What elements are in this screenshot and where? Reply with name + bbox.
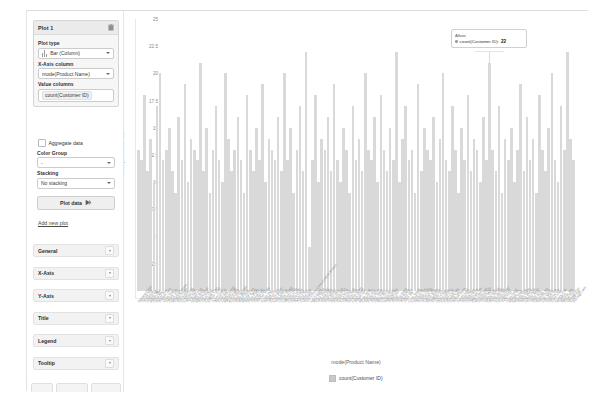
bar-series xyxy=(136,19,574,291)
bottom-button-3[interactable] xyxy=(91,383,121,392)
chevron-down-icon xyxy=(106,52,110,54)
legend-swatch xyxy=(329,375,336,382)
x-axis-column-select[interactable]: mode(Product Name) xyxy=(38,68,114,79)
stacking-select[interactable]: No stacking xyxy=(37,178,115,189)
stacking-label: Stacking xyxy=(37,170,115,176)
x-axis-title: mode(Product Name) xyxy=(124,359,588,365)
bar[interactable] xyxy=(572,160,575,291)
chart-tooltip: Afloat count(Customer ID): 22 xyxy=(451,29,527,48)
plot-type-label: Plot type xyxy=(38,40,114,46)
accordion-item-general[interactable]: General xyxy=(33,244,119,257)
chart-legend: count(Customer ID) xyxy=(124,375,588,382)
stacking-value: No stacking xyxy=(41,180,105,186)
chart-area: count(Customer ID) 2522.52017.51512.5107… xyxy=(124,11,588,392)
plot-card-header: Plot 1 xyxy=(34,21,118,35)
plot-type-value: Bar (Column) xyxy=(50,50,104,56)
accordion-general: General X-Axis Y-Axis Title Legend xyxy=(33,244,119,379)
accordion-label: General xyxy=(38,248,57,254)
run-arrow-icon xyxy=(85,199,92,206)
chevron-down-icon[interactable] xyxy=(105,359,114,368)
value-columns-field[interactable]: count(Customer ID) xyxy=(38,89,114,102)
x-axis-column-value: mode(Product Name) xyxy=(42,71,104,77)
plot-card-body: Plot type Bar (Column) X-Axis column mod… xyxy=(34,35,118,106)
accordion-label: Legend xyxy=(38,338,56,344)
accordion-item-x-axis[interactable]: X-Axis xyxy=(33,267,119,280)
chevron-down-icon[interactable] xyxy=(105,336,114,345)
accordion-label: Tooltip xyxy=(38,360,55,366)
accordion-label: Title xyxy=(38,315,49,321)
chevron-down-icon[interactable] xyxy=(105,314,114,323)
sidebar-bottom-toolbar xyxy=(31,383,121,392)
accordion-label: Y-Axis xyxy=(38,293,54,299)
accordion-item-title[interactable]: Title xyxy=(33,312,119,325)
color-group-select[interactable]: - xyxy=(37,157,115,168)
plot-data-button-label: Plot data xyxy=(60,200,82,206)
tooltip-series-dot-icon xyxy=(455,40,458,43)
bottom-button-1[interactable] xyxy=(31,383,53,392)
bar-chart-icon xyxy=(42,50,47,57)
x-axis-column-label: X-Axis column xyxy=(38,61,114,67)
tooltip-row: count(Customer ID): 22 xyxy=(455,39,523,44)
chevron-down-icon xyxy=(107,182,111,184)
page-surface: Plot 1 Plot type Bar (Column) X-Axis co xyxy=(26,10,588,391)
value-column-tag[interactable]: count(Customer ID) xyxy=(42,91,92,100)
accordion-label: X-Axis xyxy=(38,270,54,276)
plot-type-select[interactable]: Bar (Column) xyxy=(38,48,114,59)
value-columns-label: Value columns xyxy=(38,81,114,87)
aggregate-data-label: Aggregate data xyxy=(49,140,83,146)
chevron-down-icon xyxy=(107,162,111,164)
legend-label[interactable]: count(Customer ID) xyxy=(339,375,383,381)
chevron-down-icon[interactable] xyxy=(105,246,114,255)
trash-icon[interactable] xyxy=(108,24,114,31)
chevron-down-icon[interactable] xyxy=(105,269,114,278)
accordion-item-tooltip[interactable]: Tooltip xyxy=(33,357,119,370)
color-group-value: - xyxy=(41,160,105,166)
color-group-label: Color Group xyxy=(37,150,115,156)
tooltip-series-label: count(Customer ID): xyxy=(460,39,500,44)
aggregate-data-checkbox[interactable] xyxy=(38,139,46,147)
chevron-down-icon xyxy=(106,73,110,75)
plot-card: Plot 1 Plot type Bar (Column) X-Axis co xyxy=(33,20,119,107)
add-new-plot-link[interactable]: Add new plot xyxy=(38,220,68,226)
plot-card-title: Plot 1 xyxy=(38,25,53,31)
plot-config-sidebar: Plot 1 Plot type Bar (Column) X-Axis co xyxy=(27,11,124,392)
chevron-down-icon[interactable] xyxy=(105,291,114,300)
accordion-item-legend[interactable]: Legend xyxy=(33,334,119,347)
plot-builder-app: Plot 1 Plot type Bar (Column) X-Axis co xyxy=(0,0,615,410)
tooltip-title: Afloat xyxy=(455,33,523,38)
sidebar-lower-fields: Aggregate data Color Group - Stacking No… xyxy=(33,133,119,210)
tooltip-connector-line xyxy=(489,51,490,78)
tooltip-value: 22 xyxy=(501,39,506,44)
accordion-item-y-axis[interactable]: Y-Axis xyxy=(33,289,119,302)
x-axis-tick-label: Borough Jam xyxy=(572,301,575,359)
bottom-button-2[interactable] xyxy=(56,383,88,392)
aggregate-data-row[interactable]: Aggregate data xyxy=(38,139,115,147)
x-axis-tick-labels: Banana ChipsAurora TeaDriftwoodAmber Oil… xyxy=(136,301,574,359)
plot-data-button[interactable]: Plot data xyxy=(37,196,115,210)
